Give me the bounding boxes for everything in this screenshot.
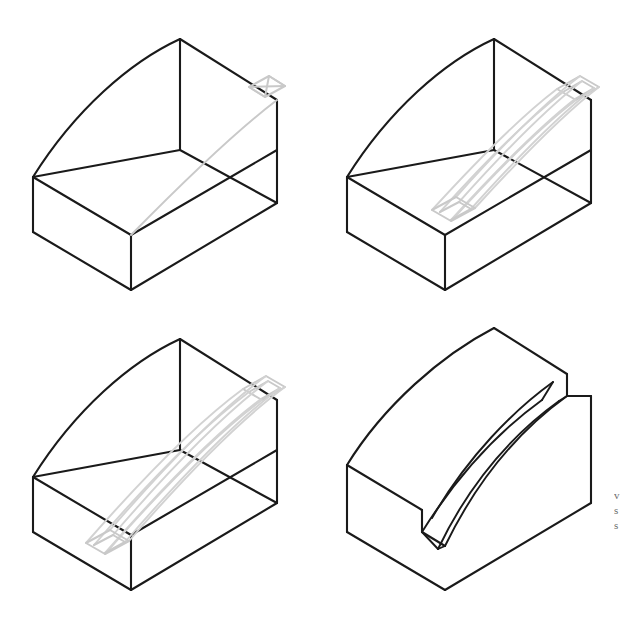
panel-2-swept-channel — [432, 76, 599, 221]
panel-2-partial-sweep — [314, 0, 628, 315]
margin-mark-1: s — [614, 503, 628, 518]
panel-1-solid-wireframe — [33, 39, 277, 290]
floor-edge-center-to-left — [33, 150, 180, 177]
bottom-front-right-edge — [131, 203, 277, 290]
panel-3-full-sweep — [0, 300, 314, 615]
channel-outer-left-curve — [86, 389, 243, 543]
sweep-profile-diagonal-b — [269, 76, 285, 86]
interior-floor-edge-left — [33, 477, 131, 535]
top-right-ridge — [180, 339, 277, 400]
panel-1-block-with-path — [0, 0, 314, 315]
margin-marks: v s s — [614, 488, 628, 550]
curved-top-edge — [347, 39, 494, 177]
margin-mark-2: s — [614, 518, 628, 533]
bottom-front-right-edge — [445, 203, 591, 290]
floor-edge-center-to-left — [347, 150, 494, 177]
interior-floor-edge-left — [33, 177, 131, 235]
interior-floor-edge-left — [347, 177, 445, 235]
floor-edge-center-to-left — [33, 450, 180, 477]
bottom-front-right-edge — [131, 503, 277, 590]
curved-top-edge — [33, 39, 180, 177]
bottom-front-left-edge — [347, 232, 445, 290]
channel-inner-right-curve — [105, 399, 261, 553]
top-right-ridge — [494, 39, 591, 100]
sweep-path-curve — [131, 100, 277, 235]
channel-inner-top-curve — [459, 81, 582, 202]
figure-root: v s s — [0, 0, 628, 631]
panel-4-final-solid — [314, 300, 628, 615]
bottom-front-left-edge — [33, 232, 131, 290]
top-right-ridge — [180, 39, 277, 100]
panel-3-solid-wireframe — [33, 339, 277, 590]
panel-4-solid-body — [347, 328, 591, 590]
curved-top-edge — [33, 339, 180, 477]
panel-2-solid-wireframe — [347, 39, 591, 290]
margin-mark-0: v — [614, 488, 628, 503]
panel-3-swept-channel — [86, 376, 285, 554]
